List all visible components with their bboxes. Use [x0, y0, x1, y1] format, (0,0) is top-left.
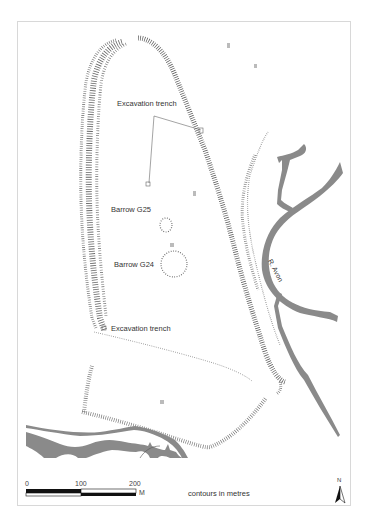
barrow-g25-mound — [160, 218, 172, 232]
label-excavation-trench-south: Excavation trench — [111, 325, 171, 333]
label-excavation-trench-north: Excavation trench — [117, 100, 177, 108]
label-barrow-g24: Barrow G24 — [114, 261, 154, 269]
contours-note: contours in metres — [188, 490, 250, 498]
grid-marks — [160, 43, 257, 404]
label-barrow-g25: Barrow G25 — [111, 206, 151, 214]
river-avon — [262, 144, 343, 437]
site-map — [0, 0, 368, 529]
north-label: N — [337, 477, 341, 483]
outer-east-rampart — [242, 132, 280, 345]
southern-enclosure — [82, 332, 281, 447]
scale-tick-100: 100 — [75, 480, 87, 487]
barrow-g24-mound — [161, 251, 187, 277]
scale-bar — [26, 489, 136, 496]
scale-tick-0: 0 — [25, 480, 29, 487]
north-arrow-icon — [335, 486, 345, 503]
western-rampart — [81, 40, 126, 330]
scale-tick-200: 200 — [129, 480, 141, 487]
southern-river-channels — [26, 425, 188, 458]
scale-unit: M — [139, 489, 145, 496]
trench-leaders — [102, 116, 203, 330]
